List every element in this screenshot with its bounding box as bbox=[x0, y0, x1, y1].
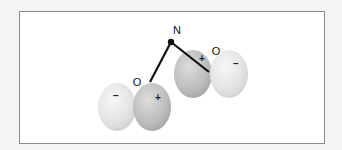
positive-sign: + bbox=[199, 53, 205, 64]
positive-lobe bbox=[174, 50, 212, 98]
oxygen-label: O bbox=[133, 76, 142, 88]
negative-lobe bbox=[210, 50, 248, 98]
bond-left bbox=[150, 42, 171, 82]
nitrogen-atom-dot bbox=[168, 39, 174, 45]
negative-sign: − bbox=[113, 90, 119, 101]
nitrogen-label: N bbox=[173, 24, 181, 36]
molecule-diagram: − + O + − O N bbox=[0, 0, 342, 150]
negative-sign: − bbox=[233, 58, 239, 69]
positive-sign: + bbox=[155, 92, 161, 103]
oxygen-group-left: − + O bbox=[98, 76, 171, 131]
positive-lobe bbox=[133, 83, 171, 131]
oxygen-label: O bbox=[212, 45, 221, 57]
